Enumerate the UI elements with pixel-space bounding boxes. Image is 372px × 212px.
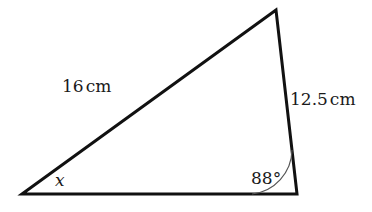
angle-label-88: 88° (251, 170, 281, 187)
side-label-right: 12.5cm (290, 91, 356, 108)
hypotenuse-unit: cm (86, 76, 112, 96)
triangle-figure: 16cm 12.5cm 88° x (0, 0, 372, 212)
right-side-value: 12.5 (290, 89, 328, 109)
right-side-unit: cm (330, 89, 356, 109)
hypotenuse-value: 16 (62, 76, 84, 96)
triangle-outline (22, 10, 297, 194)
angle-label-x: x (55, 172, 65, 189)
side-label-hypotenuse: 16cm (62, 78, 111, 95)
